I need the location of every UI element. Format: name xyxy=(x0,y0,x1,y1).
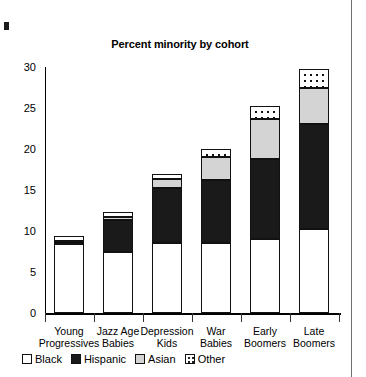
bar-segment-other xyxy=(299,69,329,88)
x-axis-tick xyxy=(143,313,144,322)
legend-label: Other xyxy=(198,353,226,365)
x-axis-tick xyxy=(192,313,193,322)
x-axis-tick xyxy=(94,313,95,322)
x-axis-tick xyxy=(45,313,46,322)
x-tick-label-line: Late xyxy=(277,325,351,337)
bar-segment-black xyxy=(103,252,133,314)
bar-segment-hispanic xyxy=(103,220,133,251)
bar-segment-asian xyxy=(250,119,280,159)
y-tick-label-10: 10 xyxy=(10,225,36,237)
bar-young-progressives xyxy=(54,236,84,313)
swatch-empty-white-icon xyxy=(22,354,32,364)
x-axis-line xyxy=(45,313,341,315)
bar-segment-black xyxy=(201,243,231,313)
bar-segment-black xyxy=(152,243,182,313)
swatch-solid-dark-icon xyxy=(71,354,81,364)
bar-segment-black xyxy=(54,244,84,313)
y-tick-label-0: 0 xyxy=(10,307,36,319)
bar-segment-hispanic xyxy=(299,124,329,229)
bar-segment-asian xyxy=(299,88,329,125)
bar-segment-black xyxy=(250,239,280,313)
x-tick-label-late-boomers: LateBoomers xyxy=(277,325,351,349)
y-tick-label-25: 25 xyxy=(10,102,36,114)
page-edge-rule xyxy=(351,0,352,377)
chart-legend: BlackHispanicAsianOther xyxy=(22,353,225,365)
legend-label: Asian xyxy=(148,353,176,365)
legend-label: Hispanic xyxy=(84,353,126,365)
bar-segment-other xyxy=(103,212,133,217)
chart-title: Percent minority by cohort xyxy=(60,38,300,50)
legend-item-hispanic: Hispanic xyxy=(71,353,126,365)
bar-segment-other xyxy=(250,106,280,118)
legend-item-black: Black xyxy=(22,353,62,365)
y-tick-label-15: 15 xyxy=(10,184,36,196)
bar-depression-kids xyxy=(152,174,182,313)
bar-segment-asian xyxy=(103,217,133,220)
bar-war-babies xyxy=(201,149,231,313)
y-tick-label-30: 30 xyxy=(10,61,36,73)
bar-segment-asian xyxy=(201,157,231,180)
bar-segment-other xyxy=(152,174,182,179)
y-axis-tick-labels: 051015202530 xyxy=(10,0,36,377)
x-axis-tick xyxy=(339,313,340,322)
bar-jazz-age-babies xyxy=(103,212,133,313)
swatch-light-gray-icon xyxy=(135,354,145,364)
bar-segment-asian xyxy=(152,179,182,188)
bar-segment-hispanic xyxy=(250,159,280,239)
swatch-dotted-icon xyxy=(185,354,195,364)
bar-segment-hispanic xyxy=(201,180,231,243)
y-tick-label-20: 20 xyxy=(10,143,36,155)
bar-late-boomers xyxy=(299,69,329,313)
legend-label: Black xyxy=(35,353,62,365)
x-tick-label-line: Boomers xyxy=(277,337,351,349)
legend-item-other: Other xyxy=(185,353,226,365)
bar-segment-black xyxy=(299,229,329,313)
bar-segment-other xyxy=(201,149,231,157)
x-axis-tick xyxy=(290,313,291,322)
plot-area xyxy=(45,67,340,313)
x-axis-tick xyxy=(241,313,242,322)
bar-early-boomers xyxy=(250,106,280,313)
percent-minority-by-cohort-chart: Percent minority by cohort 051015202530 … xyxy=(0,0,366,377)
scan-artifact-mark xyxy=(4,22,9,30)
bar-segment-other xyxy=(54,236,84,241)
y-tick-label-5: 5 xyxy=(10,266,36,278)
legend-item-asian: Asian xyxy=(135,353,176,365)
bar-segment-hispanic xyxy=(152,188,182,244)
